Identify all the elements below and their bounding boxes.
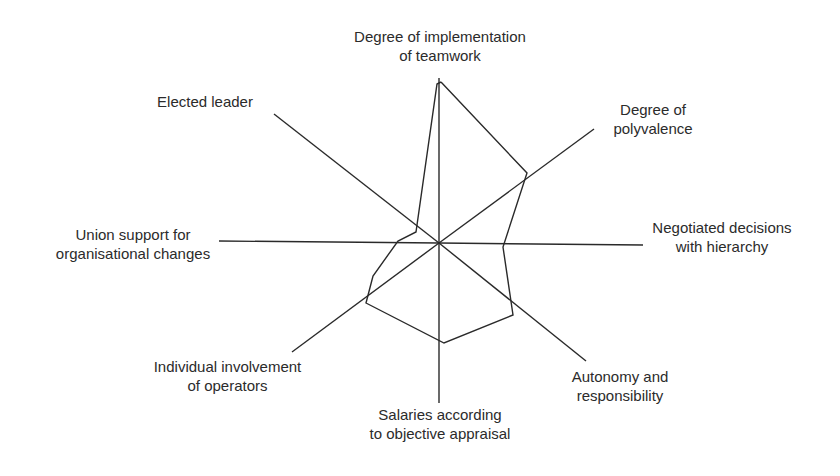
axis-label-line: polyvalence	[598, 119, 708, 138]
axis-label-line: with hierarchy	[632, 237, 812, 256]
axis-label-union-support: Union support for organisational changes	[38, 225, 228, 263]
axis-label-salaries: Salaries according to objective appraisa…	[345, 405, 535, 443]
axis-label-line: Salaries according	[345, 405, 535, 424]
axis-label-line: of teamwork	[318, 46, 562, 65]
axis-label-polyvalence: Degree of polyvalence	[598, 100, 708, 138]
axis-label-line: Union support for	[38, 225, 228, 244]
axis-line-individual	[292, 243, 439, 352]
axis-line-polyvalence	[439, 129, 594, 243]
axis-label-line: Degree of	[598, 100, 708, 119]
axis-label-autonomy: Autonomy and responsibility	[555, 367, 685, 405]
axis-label-teamwork: Degree of implementation of teamwork	[318, 27, 562, 65]
axis-label-line: Negotiated decisions	[632, 218, 812, 237]
axis-line-autonomy	[439, 243, 586, 361]
axis-label-line: Elected leader	[135, 92, 275, 111]
axis-line-union	[219, 241, 439, 243]
axis-label-line: Autonomy and	[555, 367, 685, 386]
axis-line-negotiated	[439, 243, 643, 245]
axis-label-line: of operators	[140, 376, 315, 395]
axis-label-elected-leader: Elected leader	[135, 92, 275, 111]
axis-label-individual-involvement: Individual involvement of operators	[140, 357, 315, 395]
data-polygon	[366, 82, 527, 343]
axis-line-elected	[274, 114, 439, 243]
axis-label-line: Degree of implementation	[318, 27, 562, 46]
axis-label-line: responsibility	[555, 386, 685, 405]
axis-label-negotiated-decisions: Negotiated decisions with hierarchy	[632, 218, 812, 256]
axis-label-line: to objective appraisal	[345, 424, 535, 443]
axis-label-line: organisational changes	[38, 244, 228, 263]
axis-label-line: Individual involvement	[140, 357, 315, 376]
